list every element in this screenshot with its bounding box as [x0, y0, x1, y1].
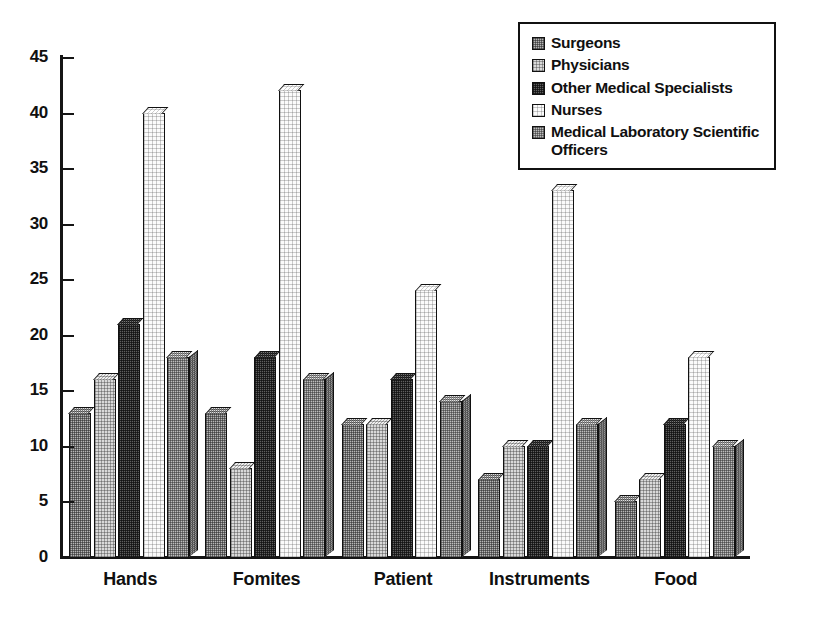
y-tick-mark [62, 390, 74, 392]
y-tick-label: 5 [39, 491, 48, 511]
bar-top-face [366, 418, 392, 425]
bar [576, 424, 598, 557]
bar [366, 424, 388, 557]
bar [94, 379, 116, 557]
bar-top-face [205, 407, 231, 414]
bar [440, 401, 462, 557]
bar-top-face [551, 184, 577, 191]
bar [639, 479, 661, 557]
legend-item: Nurses [532, 101, 766, 118]
bar [303, 379, 325, 557]
bar [118, 324, 140, 557]
y-tick-label: 10 [30, 435, 48, 455]
y-tick-mark [62, 446, 74, 448]
bar [688, 357, 710, 557]
bar [279, 90, 301, 557]
x-category-label: Hands [62, 563, 198, 597]
legend-swatch-icon [532, 59, 545, 72]
bar-slot [254, 57, 276, 557]
bar [503, 446, 525, 557]
bar-slot [69, 57, 91, 557]
bar [552, 190, 574, 557]
y-tick-mark [62, 224, 74, 226]
bar-slot [415, 57, 437, 557]
bar [415, 290, 437, 557]
bar [713, 446, 735, 557]
bar-side-face [325, 372, 334, 557]
bar [391, 379, 413, 557]
legend-swatch-icon [532, 82, 545, 95]
bar-side-face [598, 417, 607, 557]
y-tick-label: 40 [30, 102, 48, 122]
bar-slot [440, 57, 462, 557]
x-category-label: Fomites [198, 563, 334, 597]
y-tick-label: 25 [30, 269, 48, 289]
x-axis-category-labels: HandsFomitesPatientInstrumentsFood [62, 563, 744, 597]
bar-top-face [415, 284, 441, 291]
bar-top-face [278, 84, 304, 91]
bar-top-face [68, 407, 94, 414]
bar-top-face [117, 318, 143, 325]
bar [205, 413, 227, 557]
bar-top-face [663, 418, 689, 425]
y-tick-mark [62, 557, 74, 559]
legend: SurgeonsPhysiciansOther Medical Speciali… [518, 22, 776, 170]
legend-item: Medical Laboratory Scientific Officers [532, 123, 766, 158]
x-category-label: Instruments [471, 563, 607, 597]
legend-label: Other Medical Specialists [551, 79, 733, 96]
bar-chart: 454035302520151050 HandsFomitesPatientIn… [0, 0, 819, 617]
y-tick-label: 15 [30, 380, 48, 400]
legend-swatch-icon [532, 37, 545, 50]
bar-slot [303, 57, 325, 557]
bar-top-face [341, 418, 367, 425]
bar-slot [230, 57, 252, 557]
y-tick-label: 0 [39, 547, 48, 567]
legend-label: Physicians [551, 56, 630, 73]
bar-slot [279, 57, 301, 557]
bar-slot [167, 57, 189, 557]
bar-top-face [502, 440, 528, 447]
legend-label: Surgeons [551, 34, 620, 51]
bar-top-face [254, 351, 280, 358]
y-tick-label: 20 [30, 324, 48, 344]
bar [664, 424, 686, 557]
legend-swatch-icon [532, 104, 545, 117]
x-category-label: Food [608, 563, 744, 597]
legend-item: Physicians [532, 56, 766, 73]
bar-side-face [735, 439, 744, 557]
bar [527, 446, 549, 557]
y-tick-mark [62, 113, 74, 115]
legend-swatch-icon [532, 126, 545, 139]
bar-top-face [229, 462, 255, 469]
bar [615, 501, 637, 557]
bar-top-face [639, 473, 665, 480]
bar [478, 479, 500, 557]
bar-slot [366, 57, 388, 557]
y-tick-mark [62, 168, 74, 170]
legend-item: Surgeons [532, 34, 766, 51]
bar-top-face [688, 351, 714, 358]
y-tick-label: 30 [30, 213, 48, 233]
legend-label: Nurses [551, 101, 602, 118]
legend-label: Medical Laboratory Scientific Officers [551, 123, 766, 158]
bar [342, 424, 364, 557]
bar-group [335, 57, 471, 557]
legend-item: Other Medical Specialists [532, 79, 766, 96]
bar-slot [478, 57, 500, 557]
bar-top-face [614, 495, 640, 502]
bar-group [198, 57, 334, 557]
bar-top-face [527, 440, 553, 447]
bar [230, 468, 252, 557]
bar-slot [342, 57, 364, 557]
bar-side-face [462, 394, 471, 557]
bar [143, 113, 165, 557]
bar-slot [94, 57, 116, 557]
bar-top-face [93, 373, 119, 380]
bar-group [62, 57, 198, 557]
y-tick-label: 35 [30, 158, 48, 178]
bar [69, 413, 91, 557]
bar-side-face [189, 350, 198, 557]
bar [254, 357, 276, 557]
y-tick-mark [62, 501, 74, 503]
y-tick-mark [62, 335, 74, 337]
